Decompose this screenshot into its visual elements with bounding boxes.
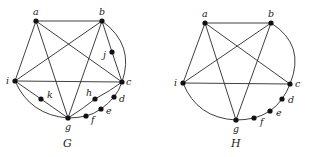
label-G-e: e <box>106 105 112 116</box>
label-H-i: i <box>174 77 177 88</box>
edge-b-i <box>15 21 102 81</box>
label-H-f: f <box>259 116 265 127</box>
node-G-i <box>12 78 17 83</box>
node-H-e <box>267 108 272 113</box>
label-H-d: d <box>288 94 294 105</box>
node-G-a <box>33 18 38 23</box>
label-G-j: j <box>101 49 106 60</box>
label-H-a: a <box>202 8 208 19</box>
graph-H: a b i c d e f g H <box>174 8 301 150</box>
node-G-b <box>99 18 104 23</box>
node-G-d <box>111 94 116 99</box>
graph-diagram: a b j i c k h d e f g G a b i c d <box>0 0 315 157</box>
node-G-j <box>109 49 114 54</box>
label-G-f: f <box>90 114 96 125</box>
label-G-c: c <box>126 76 132 87</box>
label-G-b: b <box>99 6 105 17</box>
edge-a-c <box>205 23 290 84</box>
graph-G: a b j i c k h d e f g G <box>6 6 132 150</box>
node-H-i <box>180 80 185 85</box>
caption-G: G <box>63 137 72 150</box>
node-H-c <box>287 81 292 86</box>
edge-a-g <box>205 23 236 120</box>
caption-H: H <box>230 137 241 150</box>
node-G-g <box>65 115 70 120</box>
node-H-d <box>279 96 284 101</box>
label-G-h: h <box>86 87 92 98</box>
edge-i-k <box>15 81 41 99</box>
edge-b-j <box>102 21 112 52</box>
edge-k-g <box>41 99 68 118</box>
edge-a-c <box>36 21 122 82</box>
edge-c-d-e-f-g-arc <box>236 84 290 120</box>
node-H-g <box>233 117 238 122</box>
node-G-k <box>38 96 43 101</box>
edge-b-g <box>68 21 102 118</box>
edge-b-c-arc <box>271 23 295 84</box>
edge-i-g-arc <box>183 83 236 120</box>
label-G-k: k <box>47 89 53 100</box>
edge-i-c <box>183 83 290 84</box>
node-G-h <box>92 96 97 101</box>
label-H-g: g <box>233 123 239 134</box>
label-H-b: b <box>268 8 274 19</box>
node-H-b <box>268 20 273 25</box>
edge-a-i <box>183 23 205 83</box>
edge-j-c <box>112 52 122 82</box>
node-H-a <box>202 20 207 25</box>
label-G-d: d <box>119 93 125 104</box>
edge-i-c <box>15 81 122 82</box>
node-H-f <box>251 115 256 120</box>
label-H-e: e <box>276 107 282 118</box>
edge-b-i <box>183 23 271 83</box>
label-H-c: c <box>295 78 301 89</box>
node-G-e <box>98 106 103 111</box>
edge-a-g <box>36 21 68 118</box>
node-G-f <box>83 113 88 118</box>
label-G-i: i <box>6 75 9 86</box>
label-G-g: g <box>65 121 71 132</box>
edge-b-g <box>236 23 271 120</box>
node-G-c <box>119 79 124 84</box>
edge-a-i <box>15 21 36 81</box>
label-G-a: a <box>33 6 39 17</box>
